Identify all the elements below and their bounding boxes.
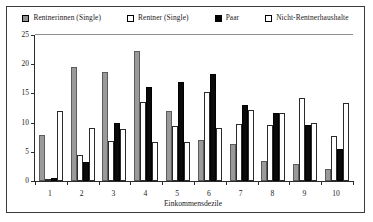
bar	[343, 103, 349, 181]
x-axis-tick-label: 6	[193, 188, 225, 199]
plot-area: 0510152025	[34, 35, 353, 182]
x-axis-tick-label: 3	[98, 188, 130, 199]
x-axis-tick-mark	[130, 181, 131, 185]
bar-group	[289, 35, 321, 181]
y-axis-tick-label: 0	[25, 177, 29, 184]
legend-swatch-open	[265, 15, 272, 22]
x-axis-tick-label: 1	[34, 188, 66, 199]
x-axis-tick-mark	[99, 181, 100, 185]
bar	[279, 113, 285, 181]
x-axis-title: Einkommensdezile	[34, 199, 352, 209]
legend-swatch-white	[127, 15, 134, 22]
bar	[311, 123, 317, 181]
x-axis-tick-label: 9	[288, 188, 320, 199]
bar	[216, 128, 222, 181]
bar-groups	[35, 35, 353, 181]
x-axis-tick-mark	[226, 181, 227, 185]
bar	[57, 111, 63, 181]
y-axis-tick-label: 25	[22, 31, 29, 38]
y-axis-tick-label: 15	[22, 90, 29, 97]
legend-label: Paar	[226, 14, 240, 21]
legend-item-paar: Paar	[215, 14, 240, 21]
legend-label: Nicht-Rentnerhaushalte	[276, 14, 348, 21]
bar	[152, 142, 158, 181]
x-axis-tick-mark	[35, 181, 36, 185]
bar	[89, 128, 95, 181]
x-axis-tick-mark	[258, 181, 259, 185]
x-axis-tick-mark	[289, 181, 290, 185]
bar-group	[226, 35, 258, 181]
x-axis-tick-label: 4	[129, 188, 161, 199]
bar-group	[99, 35, 131, 181]
x-axis-tick-mark	[67, 181, 68, 185]
x-axis-tick-label: 7	[225, 188, 257, 199]
bar	[248, 110, 254, 181]
legend-swatch-black	[215, 15, 222, 22]
y-axis-tick-label: 10	[22, 119, 29, 126]
x-axis-tick-label: 10	[320, 188, 352, 199]
bar	[184, 142, 190, 181]
legend-label: Rentnerinnen (Single)	[33, 14, 101, 21]
bar	[39, 135, 45, 181]
bar-group	[258, 35, 290, 181]
bar	[120, 129, 126, 181]
legend-item-rentner-single: Rentner (Single)	[127, 14, 189, 21]
bar-group	[35, 35, 67, 181]
bar-group	[130, 35, 162, 181]
x-axis-tick-mark	[162, 181, 163, 185]
x-axis-tick-labels: 12345678910	[34, 188, 352, 199]
x-axis-tick-label: 2	[66, 188, 98, 199]
x-axis-tick-mark	[194, 181, 195, 185]
chart-legend: Rentnerinnen (Single) Rentner (Single) P…	[7, 7, 364, 29]
x-axis-tick-label: 8	[257, 188, 289, 199]
chart-figure: Rentnerinnen (Single) Rentner (Single) P…	[0, 0, 373, 222]
x-axis-tick-label: 5	[161, 188, 193, 199]
y-axis-tick-label: 20	[22, 61, 29, 68]
y-axis-tick-label: 5	[25, 148, 29, 155]
x-axis-tick-mark	[321, 181, 322, 185]
bar-group	[194, 35, 226, 181]
legend-swatch-gray	[22, 15, 29, 22]
x-axis-tick-mark	[353, 181, 354, 185]
legend-label: Rentner (Single)	[138, 14, 189, 21]
bar-group	[67, 35, 99, 181]
legend-item-rentnerinnen-single: Rentnerinnen (Single)	[22, 14, 101, 21]
legend-item-nicht-rentnerhaushalte: Nicht-Rentnerhaushalte	[265, 14, 348, 21]
bar-group	[162, 35, 194, 181]
bar-group	[321, 35, 353, 181]
